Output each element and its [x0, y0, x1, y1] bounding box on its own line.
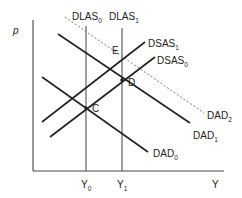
point-c-label: C [92, 103, 99, 114]
x-axis-label: Y [212, 179, 219, 190]
dad2-label: DAD2 [207, 110, 232, 123]
dsas0-line [50, 57, 155, 137]
x-tick-y1: Y1 [117, 179, 128, 192]
ad-as-diagram: p Y DLAS0 DLAS1 DSAS1 DSAS0 DAD2 DAD1 DA… [0, 0, 242, 198]
y-axis-label: p [12, 25, 19, 36]
dad1-label: DAD1 [193, 130, 218, 143]
dlas0-label: DLAS0 [72, 11, 102, 24]
dlas1-label: DLAS1 [109, 11, 139, 24]
x-tick-y0: Y0 [81, 179, 92, 192]
dsas1-label: DSAS1 [148, 38, 179, 51]
point-c-marker [84, 106, 88, 110]
dad0-label: DAD0 [153, 148, 178, 161]
dsas0-label: DSAS0 [157, 55, 188, 68]
point-d-label: D [128, 77, 135, 88]
dad0-line [42, 77, 148, 152]
point-d-marker [120, 78, 124, 82]
point-e-label: E [112, 45, 119, 56]
